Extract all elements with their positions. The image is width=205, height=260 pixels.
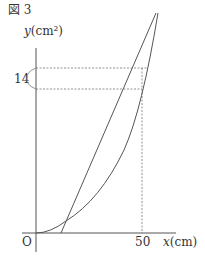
graph-canvas [0, 0, 205, 260]
straight-line [61, 13, 156, 233]
brace-14 [27, 68, 36, 89]
curve [36, 13, 158, 233]
